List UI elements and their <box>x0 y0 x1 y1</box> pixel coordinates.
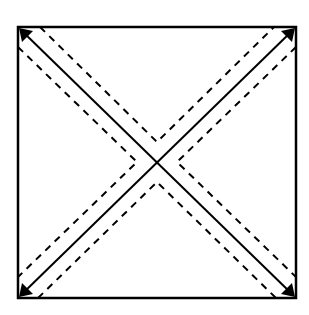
diagram-canvas <box>0 0 309 315</box>
